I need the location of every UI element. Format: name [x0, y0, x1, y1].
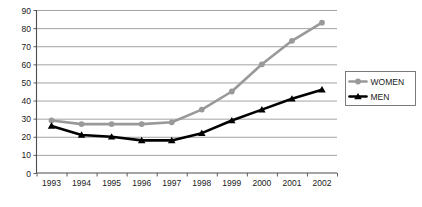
series-layer	[48, 20, 326, 143]
x-axis-labels-group: 1993199419951996199719981999200020012002	[42, 178, 332, 188]
data-point-marker	[169, 119, 175, 125]
data-point-marker	[319, 20, 325, 26]
x-axis-tick-label: 1994	[72, 178, 91, 188]
y-axis-tick-label: 80	[22, 24, 32, 34]
y-axis-tick-label: 20	[22, 132, 32, 142]
y-axis-tick-label: 90	[22, 6, 32, 16]
chart-legend: WOMENMEN	[346, 72, 416, 106]
x-axis-tick-label: 2002	[313, 178, 332, 188]
y-axis-tick-label: 50	[22, 78, 32, 88]
x-axis-tick-label: 1996	[132, 178, 151, 188]
y-axis-tick-label: 70	[22, 42, 32, 52]
series-women	[49, 20, 325, 127]
data-point-marker	[355, 79, 361, 85]
data-point-marker	[109, 121, 115, 127]
line-chart: 0102030405060708090 19931994199519961997…	[0, 0, 422, 207]
data-point-marker	[139, 121, 145, 127]
data-point-marker	[229, 89, 235, 95]
y-axis-tick-label: 60	[22, 60, 32, 70]
data-point-marker	[259, 61, 265, 67]
y-axis-tick-label: 40	[22, 96, 32, 106]
legend-label: WOMEN	[371, 77, 405, 87]
x-axis-tick-label: 1993	[42, 178, 61, 188]
x-axis-tick-label: 1997	[162, 178, 181, 188]
x-axis-tick-label: 1999	[222, 178, 241, 188]
legend-label: MEN	[371, 92, 390, 102]
x-axis-tick-label: 1998	[192, 178, 211, 188]
y-axis-labels-group: 0102030405060708090	[22, 6, 32, 179]
x-axis-tick-label: 2000	[252, 178, 271, 188]
chart-canvas: 0102030405060708090 19931994199519961997…	[0, 0, 422, 207]
y-axis-tick-label: 10	[22, 150, 32, 160]
data-point-marker	[79, 121, 85, 127]
series-line	[52, 23, 322, 124]
x-axis-tick-label: 1995	[102, 178, 121, 188]
data-point-marker	[199, 107, 205, 113]
y-axis-tick-label: 30	[22, 114, 32, 124]
y-axis-tick-label: 0	[26, 169, 31, 179]
x-axis-tick-label: 2001	[282, 178, 301, 188]
data-point-marker	[289, 38, 295, 44]
